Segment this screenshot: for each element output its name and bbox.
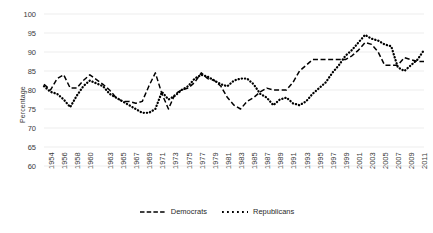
legend-label-republicans: Republicans xyxy=(253,207,294,216)
dotted-line-swatch-icon xyxy=(221,208,249,216)
dashed-line-swatch-icon xyxy=(139,208,167,216)
series-line-republicans xyxy=(44,35,424,113)
legend: Democrats Republicans xyxy=(0,207,433,216)
legend-label-democrats: Democrats xyxy=(171,207,207,216)
data-series-layer xyxy=(44,35,424,113)
chart-container: Percentage 6065707580859095100 195419561… xyxy=(0,0,433,233)
plot-area xyxy=(0,0,433,233)
legend-item-republicans[interactable]: Republicans xyxy=(221,207,294,216)
series-line-democrats xyxy=(44,43,424,110)
legend-item-democrats[interactable]: Democrats xyxy=(139,207,207,216)
